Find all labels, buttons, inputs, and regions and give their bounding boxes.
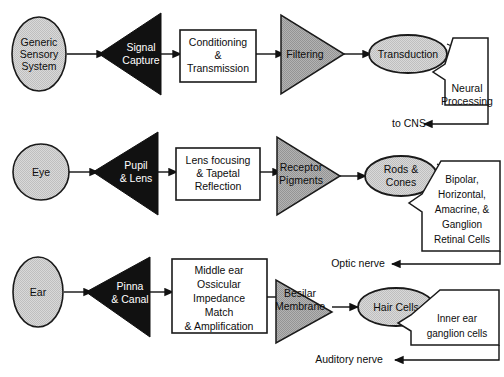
connector-stage5-to-output — [424, 105, 488, 124]
connector-stage5-to-output — [395, 345, 499, 360]
stage2-label-line: Middle ear — [194, 264, 244, 276]
stage3-label-line: Pigments — [279, 174, 323, 186]
stage2-label-line: Conditioning — [189, 36, 248, 48]
stage2-label-line: & Amplification — [185, 320, 254, 332]
stage4-label-line: Transduction — [378, 48, 438, 60]
stage2-label-line: Lens focusing — [186, 154, 251, 166]
stage2-label-line: Impedance — [193, 292, 245, 304]
stage1-label-line: Capture — [122, 54, 160, 66]
stage5-label-line: ganglion cells — [427, 328, 488, 339]
stage1-label-line: Signal — [126, 41, 155, 53]
stage1-label-line: & Lens — [120, 172, 153, 184]
output-label-ear: Auditory nerve — [315, 353, 383, 365]
source-label-line: System — [21, 60, 56, 72]
stage2-label-line: Reflection — [195, 180, 242, 192]
source-label-line: Sensory — [20, 48, 59, 60]
stage5-label-line: Amacrine, & — [435, 204, 490, 215]
output-label-generic: to CNS — [392, 117, 426, 129]
stage1-label-line: Pupil — [124, 159, 147, 171]
row-ear: Ear Pinna & Canal Middle ear Ossicular I… — [13, 257, 499, 365]
sensory-pathway-diagram: Generic Sensory System Signal Capture Co… — [0, 0, 504, 377]
stage1-label-line: Pinna — [117, 280, 144, 292]
flow-svg: Generic Sensory System Signal Capture Co… — [0, 0, 504, 377]
stage4-label-line: Cones — [386, 176, 416, 188]
row-generic: Generic Sensory System Signal Capture Co… — [12, 13, 493, 129]
stage5-label-line: Inner ear — [437, 313, 478, 324]
stage2-label-line: & Tapetal — [196, 167, 240, 179]
stage5-label-line: Neural — [452, 82, 483, 94]
stage1-label-line: & Canal — [111, 293, 148, 305]
stage3-label-line: Membrane — [275, 300, 325, 312]
source-label-line: Generic — [21, 36, 58, 48]
source-label-line: Eye — [32, 166, 50, 178]
stage5-label-line: Bipolar, — [445, 174, 478, 185]
stage5-label-line: Ganglion — [442, 219, 482, 230]
output-label-eye: Optic nerve — [331, 257, 385, 269]
row-eye: Eye Pupil & Lens Lens focusing & Tapetal… — [13, 132, 500, 269]
stage3-label-line: Filtering — [286, 48, 324, 60]
stage2-label-line: Transmission — [187, 62, 249, 74]
stage5-label-line: Processing — [441, 95, 493, 107]
stage2-label-line: Ossicular — [197, 278, 241, 290]
stage5-label-line: Retinal Cells — [434, 234, 490, 245]
source-label-line: Ear — [30, 286, 47, 298]
stage3-label-line: Besilar — [284, 287, 317, 299]
stage4-label-line: Rods & — [384, 163, 418, 175]
stage2-label-line: & — [214, 49, 221, 61]
connector-stage5-to-output — [392, 251, 500, 264]
stage4-label-line: Hair Cells — [373, 301, 419, 313]
stage2-label-line: Match — [205, 306, 234, 318]
stage5-label-line: Horizontal, — [438, 189, 486, 200]
stage3-label-line: Receptor — [280, 161, 323, 173]
